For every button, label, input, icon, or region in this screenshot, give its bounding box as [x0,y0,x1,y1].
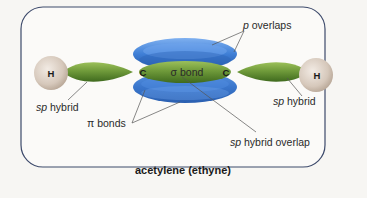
sp-hybrid-overlap-label: sp hybrid overlap [230,136,310,148]
right-sp-hybrid-label: sp hybrid [273,95,316,107]
right-carbon-label: C [223,67,230,78]
sigma-bond-label: σ bond [171,66,204,78]
left-sp-hybrid-label: sp hybrid [36,101,79,113]
right-hydrogen-label: H [314,70,321,81]
acetylene-diagram: H H C C σ bond p overlaps sp hybrid sp h… [0,0,367,198]
left-hydrogen-label: H [48,68,55,79]
pi-bonds-label: π bonds [87,117,126,129]
left-carbon-label: C [140,67,147,78]
p-overlaps-label: p overlaps [242,19,291,31]
diagram-title: acetylene (ethyne) [135,164,231,176]
